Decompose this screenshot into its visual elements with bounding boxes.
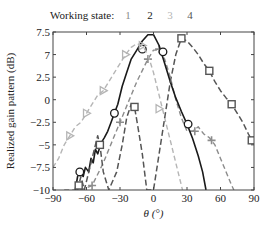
x-tick-label: 60	[215, 192, 227, 204]
square-marker	[228, 101, 235, 108]
y-tick-label: −5	[38, 139, 50, 151]
y-tick-label: 7	[45, 49, 51, 61]
legend-entry-2: 2	[147, 9, 153, 21]
circle-marker	[76, 168, 84, 176]
square-marker	[96, 141, 103, 148]
plus-marker	[116, 118, 124, 126]
series-4	[75, 35, 255, 190]
circle-marker	[184, 120, 192, 128]
x-tick-label: 30	[182, 192, 194, 204]
x-tick-label: 0	[151, 192, 157, 204]
square-marker	[178, 35, 185, 42]
legend-title: Working state:	[50, 9, 114, 21]
y-tick-label: −7.5	[30, 161, 50, 173]
x-tick-label: −60	[78, 192, 96, 204]
y-tick-label: 7.5	[36, 26, 50, 38]
x-tick-label: 90	[249, 192, 261, 204]
x-tick-label: −30	[111, 192, 129, 204]
square-marker	[75, 182, 82, 189]
y-axis-label: Realized gain pattern (dB)	[4, 52, 17, 169]
plus-marker	[88, 181, 96, 189]
circle-marker	[159, 48, 167, 56]
square-marker	[206, 67, 213, 74]
series-2	[75, 35, 206, 190]
y-tick-label: −2.5	[30, 116, 50, 128]
gain-pattern-chart: Working state: 1234 −90−60−3003060907.57…	[0, 0, 272, 233]
legend: Working state: 1234	[50, 9, 193, 21]
y-tick-label: 0	[45, 94, 51, 106]
plot-series	[53, 35, 255, 190]
legend-entry-3: 3	[167, 9, 173, 21]
circle-marker	[111, 109, 119, 117]
legend-entry-1: 1	[125, 9, 131, 21]
y-tick-label: 2.5	[36, 71, 50, 83]
x-axis-label: θ (°)	[144, 207, 164, 220]
plus-marker	[191, 127, 199, 135]
y-tick-label: −10	[33, 184, 51, 196]
square-marker	[131, 103, 138, 110]
legend-entry-4: 4	[187, 9, 193, 21]
